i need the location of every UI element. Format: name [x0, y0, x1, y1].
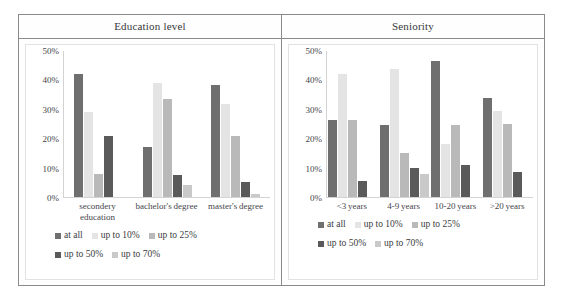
legend-item[interactable]: up to 50% [55, 249, 103, 260]
bar-up-to-25- [94, 174, 103, 197]
legend-swatch-icon [412, 222, 418, 228]
legend-item[interactable]: up to 70% [112, 249, 160, 260]
legend-item[interactable]: up to 25% [412, 219, 460, 230]
panel-education-level: Education level 50%40%30%20%10%0% second… [19, 15, 282, 285]
legend-swatch-icon [318, 222, 324, 228]
bar-at-all [483, 98, 492, 197]
plot-area-seniority [326, 51, 533, 198]
bar-at-all [328, 120, 337, 197]
bar-up-to-10- [441, 144, 450, 197]
chart-education-level: 50%40%30%20%10%0% secondery educationbac… [25, 44, 275, 280]
bar-group [430, 51, 482, 197]
bar-at-all [431, 61, 440, 197]
y-tick-label: 20% [43, 135, 60, 144]
bar-up-to-10- [390, 69, 399, 197]
panel-header-education-level: Education level [19, 15, 281, 39]
legend-item[interactable]: up to 10% [92, 230, 140, 241]
y-tick-label: 0% [310, 194, 322, 203]
bar-up-to-25- [400, 153, 409, 197]
bar-group [379, 51, 431, 197]
bar-group [133, 51, 202, 197]
bar-up-to-50- [410, 168, 419, 197]
bar-group [482, 51, 534, 197]
bar-up-to-70- [183, 185, 192, 197]
legend-swatch-icon [112, 252, 118, 258]
legend-swatch-icon [149, 233, 155, 239]
legend-item[interactable]: up to 70% [375, 238, 423, 249]
y-tick-label: 50% [306, 47, 323, 56]
legend-item[interactable]: up to 50% [318, 238, 366, 249]
y-tick-label: 40% [43, 76, 60, 85]
bar-at-all [74, 74, 83, 197]
y-tick-label: 30% [306, 105, 323, 114]
legend-swatch-icon [92, 233, 98, 239]
legend-label: at all [64, 230, 83, 241]
bar-up-to-10- [338, 74, 347, 197]
category-labels-education-level: secondery educationbachelor's degreemast… [63, 201, 270, 223]
panel-header-seniority: Seniority [282, 15, 544, 39]
y-tick-label: 10% [43, 164, 60, 173]
y-tick-label: 0% [47, 194, 59, 203]
bar-up-to-50- [241, 182, 250, 197]
bar-up-to-25- [231, 136, 240, 197]
y-tick-label: 30% [43, 105, 60, 114]
legend-seniority: at allup to 10%up to 25%up to 50%up to 7… [292, 219, 533, 249]
y-tick-label: 50% [43, 47, 60, 56]
bar-up-to-50- [358, 181, 367, 197]
legend-swatch-icon [355, 222, 361, 228]
bar-up-to-50- [173, 175, 182, 197]
bar-up-to-25- [451, 125, 460, 197]
bar-up-to-25- [163, 99, 172, 197]
figure-table: Education level 50%40%30%20%10%0% second… [18, 14, 545, 286]
bar-up-to-25- [503, 124, 512, 197]
panel-body-seniority: 50%40%30%20%10%0% <3 years4-9 years10-20… [282, 39, 544, 285]
legend-item[interactable]: up to 10% [355, 219, 403, 230]
legend-label: up to 50% [327, 238, 366, 249]
category-label: 10-20 years [430, 201, 482, 212]
bar-up-to-25- [348, 120, 357, 197]
legend-swatch-icon [55, 252, 61, 258]
plot-wrap-education-level: 50%40%30%20%10%0% [29, 51, 270, 198]
legend-label: up to 25% [158, 230, 197, 241]
category-label: 4-9 years [378, 201, 430, 212]
category-label: <3 years [326, 201, 378, 212]
bar-up-to-70- [420, 174, 429, 197]
category-label: bachelor's degree [132, 201, 201, 223]
y-tick-label: 40% [306, 76, 323, 85]
y-tick-label: 20% [306, 135, 323, 144]
bar-up-to-10- [221, 104, 230, 197]
legend-swatch-icon [55, 233, 61, 239]
legend-label: at all [327, 219, 346, 230]
legend-item[interactable]: at all [318, 219, 346, 230]
category-label: master's degree [201, 201, 270, 223]
legend-label: up to 25% [421, 219, 460, 230]
bar-up-to-50- [104, 136, 113, 197]
legend-label: up to 10% [364, 219, 403, 230]
bar-at-all [143, 147, 152, 197]
legend-swatch-icon [375, 241, 381, 247]
bar-at-all [380, 125, 389, 197]
y-axis-education-level: 50%40%30%20%10%0% [29, 51, 63, 198]
y-axis-seniority: 50%40%30%20%10%0% [292, 51, 326, 198]
bar-up-to-10- [84, 112, 93, 197]
bar-up-to-50- [513, 172, 522, 197]
panel-body-education-level: 50%40%30%20%10%0% secondery educationbac… [19, 39, 281, 285]
legend-swatch-icon [318, 241, 324, 247]
legend-label: up to 10% [101, 230, 140, 241]
category-label: >20 years [481, 201, 533, 212]
category-label: secondery education [63, 201, 132, 223]
bar-group [201, 51, 270, 197]
legend-education-level: at allup to 10%up to 25%up to 50%up to 7… [29, 230, 270, 260]
legend-label: up to 50% [64, 249, 103, 260]
legend-item[interactable]: up to 25% [149, 230, 197, 241]
panel-seniority: Seniority 50%40%30%20%10%0% <3 years4-9 … [282, 15, 544, 285]
legend-label: up to 70% [121, 249, 160, 260]
legend-item[interactable]: at all [55, 230, 83, 241]
bar-group [64, 51, 133, 197]
chart-seniority: 50%40%30%20%10%0% <3 years4-9 years10-20… [288, 44, 538, 280]
y-tick-label: 10% [306, 164, 323, 173]
bar-group [327, 51, 379, 197]
category-labels-seniority: <3 years4-9 years10-20 years>20 years [326, 201, 533, 212]
plot-wrap-seniority: 50%40%30%20%10%0% [292, 51, 533, 198]
legend-label: up to 70% [384, 238, 423, 249]
